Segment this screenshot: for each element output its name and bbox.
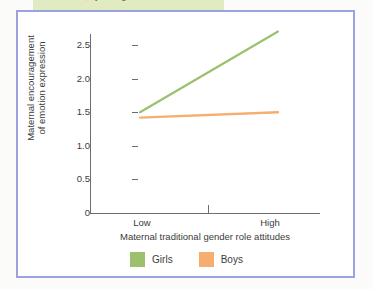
legend-swatch-girls — [130, 252, 145, 267]
legend-label-boys: Boys — [221, 254, 243, 265]
legend-item-girls: Girls — [130, 252, 173, 267]
chart-legend: Girls Boys — [0, 252, 373, 267]
figure-caption-fragment: role attitudes, by child gender — [37, 0, 222, 1]
figure-frame — [16, 10, 355, 278]
legend-label-girls: Girls — [152, 254, 173, 265]
legend-item-boys: Boys — [199, 252, 243, 267]
legend-swatch-boys — [199, 252, 214, 267]
